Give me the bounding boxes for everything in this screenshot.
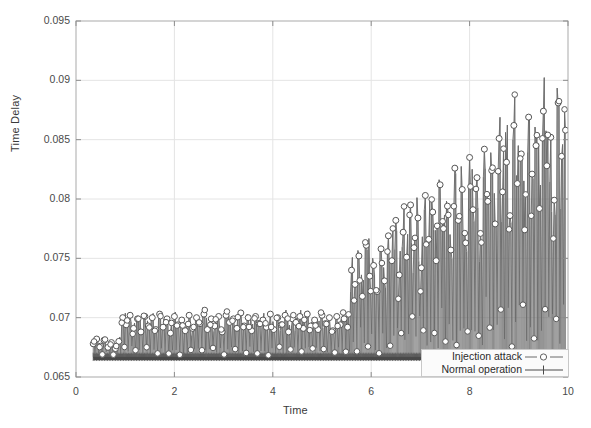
legend-item-injection-attack: Injection attack xyxy=(422,350,568,363)
y-tick-label: 0.09 xyxy=(24,73,70,85)
x-tick-label: 10 xyxy=(548,385,588,397)
chart-figure: Time Delay Time 0.0650.070.0750.080.0850… xyxy=(0,0,591,428)
legend-symbol-plus xyxy=(523,363,565,376)
y-axis-label: Time Delay xyxy=(9,95,21,152)
x-tick-label: 2 xyxy=(154,385,194,397)
legend-symbol-circle-open xyxy=(523,350,565,363)
x-tick-label: 6 xyxy=(351,385,391,397)
legend-item-normal-operation: Normal operation xyxy=(422,363,568,376)
y-tick-label: 0.075 xyxy=(24,251,70,263)
chart-legend: Injection attack Normal operation xyxy=(421,349,569,377)
y-tick-label: 0.095 xyxy=(24,14,70,26)
y-tick-label: 0.07 xyxy=(24,311,70,323)
legend-label-injection-attack: Injection attack xyxy=(452,350,522,363)
legend-label-normal-operation: Normal operation xyxy=(441,363,522,376)
y-tick-label: 0.085 xyxy=(24,133,70,145)
x-axis-label: Time xyxy=(0,404,591,416)
y-tick-label: 0.08 xyxy=(24,192,70,204)
x-tick-label: 0 xyxy=(56,385,96,397)
y-tick-label: 0.065 xyxy=(24,370,70,382)
x-tick-label: 4 xyxy=(253,385,293,397)
x-tick-label: 8 xyxy=(450,385,490,397)
